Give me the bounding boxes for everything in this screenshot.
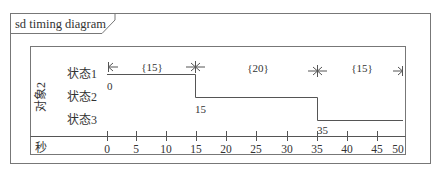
transition-label-0: 0 <box>107 80 113 92</box>
constraint-label-3: {15} <box>351 62 373 74</box>
tick-label: 5 <box>133 143 139 155</box>
frame-title: sd timing diagram <box>15 17 106 31</box>
transition-label-35: 35 <box>317 124 329 136</box>
state-waveform <box>107 75 403 121</box>
transition-label-15: 15 <box>195 103 207 115</box>
constraint-label-2: {20} <box>247 62 269 74</box>
tick-label: 50 <box>392 143 404 155</box>
tick-label: 35 <box>311 143 323 155</box>
tick-label: 45 <box>371 143 383 155</box>
tick-label: 0 <box>104 143 110 155</box>
tick-label: 25 <box>250 143 262 155</box>
constraint-marker-35 <box>308 65 327 77</box>
constraint-end-marker <box>393 66 403 76</box>
constraint-marker-15 <box>186 61 205 73</box>
tick-label: 20 <box>220 143 232 155</box>
state-label-2: 状态2 <box>67 90 97 104</box>
lifeline-name: 对象2 <box>34 82 48 112</box>
constraint-label-1: {15} <box>141 61 163 73</box>
tick-label: 10 <box>160 143 172 155</box>
outer-frame <box>11 14 431 164</box>
state-label-1: 状态1 <box>67 67 97 81</box>
axis-unit-label: 秒 <box>35 141 47 155</box>
timing-diagram: sd timing diagram 对象2 状态1 状态2 状态3 0 15 3… <box>0 0 442 191</box>
tick-label: 15 <box>190 143 202 155</box>
state-label-3: 状态3 <box>67 113 97 127</box>
constraint-start-marker <box>109 62 119 72</box>
tick-label: 40 <box>341 143 353 155</box>
tick-label: 30 <box>281 143 293 155</box>
